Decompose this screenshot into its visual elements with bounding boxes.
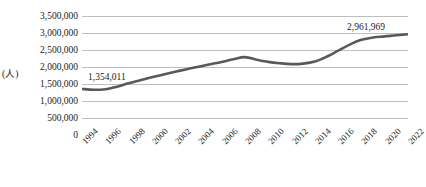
y-tick-label: 1,000,000 <box>18 96 78 106</box>
plot-area <box>82 16 408 135</box>
y-tick-label: 0 <box>18 130 78 140</box>
y-axis-unit-label: (人) <box>2 69 18 80</box>
y-tick-label: 3,000,000 <box>18 28 78 38</box>
x-tick-label: 2022 <box>406 126 426 146</box>
series-line <box>82 34 408 90</box>
data-label-start: 1,354,011 <box>88 72 126 83</box>
y-tick-label: 2,000,000 <box>18 62 78 72</box>
y-axis-tick-labels: 3,500,000 3,000,000 2,500,000 2,000,000 … <box>18 0 78 187</box>
plot-svg <box>82 16 408 135</box>
y-tick-label: 2,500,000 <box>18 45 78 55</box>
gridlines <box>82 17 408 136</box>
y-tick-label: 3,500,000 <box>18 11 78 21</box>
y-tick-label: 1,500,000 <box>18 79 78 89</box>
data-label-end: 2,961,969 <box>347 22 385 33</box>
y-tick-label: 500,000 <box>18 113 78 123</box>
